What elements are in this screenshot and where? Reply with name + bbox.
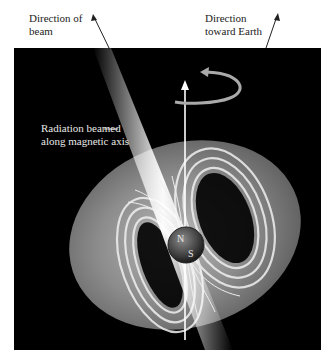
- neutron-star: [168, 227, 204, 263]
- label-radiation-beamed: Radiation beamed along magnetic axis: [41, 122, 129, 148]
- label-direction-of-beam: Direction of beam: [29, 12, 82, 38]
- earth-direction-pointer: [266, 16, 277, 48]
- label-direction-toward-earth: Direction toward Earth: [205, 12, 262, 38]
- pulsar-diagram: [0, 0, 329, 358]
- rotation-axis-arrowhead: [181, 80, 189, 90]
- beam-direction-pointer: [94, 17, 110, 50]
- label-north-pole: N: [177, 232, 184, 245]
- label-south-pole: S: [188, 247, 194, 260]
